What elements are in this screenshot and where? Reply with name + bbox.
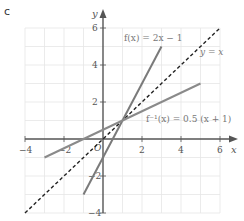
svg-text:6: 6 xyxy=(92,23,98,33)
label-f: f(x) = 2x − 1 xyxy=(124,33,182,43)
origin-label: O xyxy=(94,143,102,153)
chart: −4 −2 2 4 6 6 4 2 −2 −4 O x y f(x) = 2x … xyxy=(0,0,244,221)
x-axis-arrow-icon xyxy=(229,136,238,143)
svg-text:−4: −4 xyxy=(19,145,33,155)
label-y-equals-x: y = x xyxy=(199,47,223,57)
svg-text:4: 4 xyxy=(92,60,98,70)
svg-text:6: 6 xyxy=(217,145,223,155)
x-axis-label: x xyxy=(231,144,237,155)
svg-text:2: 2 xyxy=(139,145,145,155)
svg-text:−4: −4 xyxy=(88,208,102,218)
label-f-inverse: f⁻¹(x) = 0.5 (x + 1) xyxy=(146,114,231,124)
y-axis-label: y xyxy=(91,8,98,19)
y-axis-arrow-icon xyxy=(100,9,107,18)
svg-text:4: 4 xyxy=(178,145,184,155)
svg-text:2: 2 xyxy=(92,97,98,107)
